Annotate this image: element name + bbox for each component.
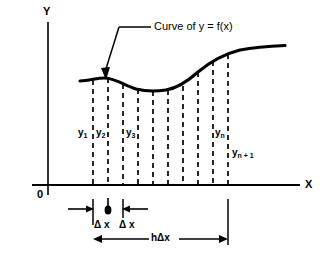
delta-x-right-label: Δ x: [119, 220, 135, 230]
figure-canvas: [0, 0, 327, 265]
riemann-sum-figure: Y X 0 Curve of y = f(x) y1 y2 y3 yn yn +…: [0, 0, 327, 265]
ordinate-label-yn-plus-1: yn + 1: [232, 148, 254, 158]
ordinate-base: y: [126, 127, 132, 138]
ordinate-subscript: n: [221, 132, 225, 139]
ordinate-lines-group: [93, 54, 228, 185]
span-label: hΔx: [151, 233, 170, 243]
ordinate-label-y1: y1: [78, 128, 87, 138]
ordinate-base: y: [96, 127, 102, 138]
ordinate-base: y: [232, 147, 238, 158]
ordinate-subscript: n + 1: [238, 152, 254, 159]
origin-label: 0: [37, 189, 43, 200]
curve-label-leader: [101, 27, 151, 80]
ordinate-label-y3: y3: [126, 128, 135, 138]
ordinate-subscript: 1: [84, 132, 88, 139]
ordinate-base: y: [78, 127, 84, 138]
x-axis-label: X: [305, 179, 312, 190]
curve-equation-label: Curve of y = f(x): [154, 21, 233, 32]
ordinate-subscript: 2: [102, 132, 106, 139]
ordinate-label-y2: y2: [96, 128, 105, 138]
ordinate-base: y: [215, 127, 221, 138]
ordinate-label-yn: yn: [215, 128, 225, 138]
ordinate-subscript: 3: [132, 132, 136, 139]
delta-x-left-label: Δ x: [94, 220, 110, 230]
y-axis-label: Y: [43, 6, 50, 17]
